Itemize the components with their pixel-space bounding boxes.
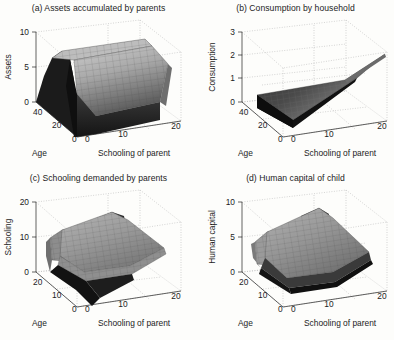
panel-a-ytick-20: 20 [171,121,181,131]
panel-a-xtick-40: 40 [33,107,43,117]
panel-c-ztick-10: 10 [20,232,30,242]
panel-d-ztick-10: 10 [226,197,236,207]
panel-b-z-axis: 3 2 1 0 Consumption [207,27,242,107]
panel-d-plot: 10 5 0 Human capital 20 10 0 Age 0 10 20 [197,186,394,340]
panel-d-ytick-0: 0 [291,304,296,314]
panel-d-ytick-10: 10 [324,299,334,309]
panel-c-xtick-10: 10 [52,290,62,300]
panel-c-ytick-20: 20 [171,291,181,301]
panel-d-zlabel: Human capital [207,210,217,264]
panel-b-surface [257,54,386,128]
panel-a-xtick-0: 0 [72,134,77,144]
panel-a-ztick-2: 10 [20,27,30,37]
panel-d-surface [251,208,373,294]
panel-a-xtick-20: 20 [52,120,62,130]
panel-d-xlabel: Age [238,318,253,328]
panel-c-ztick-0: 0 [24,267,29,277]
panel-b-ytick-20: 20 [377,121,387,131]
panel-a-plot: 10 5 0 Assets 40 20 0 Age 0 10 [0,16,197,170]
panel-d-ztick-5: 5 [230,232,235,242]
panel-c-xlabel: Age [32,318,47,328]
panel-a-ytick-10: 10 [118,129,128,139]
panel-a-ztick-0: 0 [24,97,29,107]
panel-d-ytick-20: 20 [377,291,387,301]
panel-d-xtick-0: 0 [278,304,283,314]
panel-d-title: (d) Human capital of child [197,173,394,183]
panel-b-ztick-0: 0 [230,97,235,107]
panel-d-xtick-20: 20 [239,277,249,287]
panel-c-ylabel: Schooling of parent [98,318,171,328]
panel-b-ztick-2: 2 [230,50,235,60]
panel-c-zlabel: Schooling [3,218,13,255]
panel-b-ztick-1: 1 [230,73,235,83]
panel-c-ytick-0: 0 [85,304,90,314]
panel-c-xtick-0: 0 [72,304,77,314]
panel-c-ztick-20: 20 [20,197,30,207]
panel-a-ylabel: Schooling of parent [98,148,171,158]
panel-b: (b) Consumption by household [197,0,394,170]
panel-b-xtick-0: 0 [278,134,283,144]
panel-b-ztick-3: 3 [230,27,235,37]
panel-b-ytick-0: 0 [291,134,296,144]
panel-d: (d) Human capital of child [197,170,394,340]
panel-a-z-axis: 10 5 0 Assets [3,27,36,107]
panel-b-xlabel: Age [238,148,253,158]
panel-d-ylabel: Schooling of parent [304,318,377,328]
panel-c-surface [46,212,166,306]
panel-d-ztick-0: 0 [230,267,235,277]
panel-d-xtick-10: 10 [258,290,268,300]
panel-b-plot: 3 2 1 0 Consumption 40 20 0 Age 0 10 [197,16,394,170]
panel-c-plot: 20 10 0 Schooling 20 10 0 Age 0 10 20 [0,186,197,340]
panel-c-ytick-10: 10 [118,299,128,309]
panel-c-z-axis: 20 10 0 Schooling [3,197,36,277]
panel-b-xtick-20: 20 [258,120,268,130]
panel-b-zlabel: Consumption [207,42,217,92]
panel-b-y-axis: 0 10 20 Schooling of parent [283,121,387,158]
panel-a-xlabel: Age [32,148,47,158]
figure-grid: (a) Assets accumulated by parents [0,0,394,340]
panel-a-zlabel: Assets [3,54,13,79]
panel-a: (a) Assets accumulated by parents [0,0,197,170]
panel-a-ztick-1: 5 [24,62,29,72]
panel-c: (c) Schooling demanded by parents [0,170,197,340]
panel-b-ylabel: Schooling of parent [304,148,377,158]
panel-c-title: (c) Schooling demanded by parents [0,173,197,183]
panel-b-title: (b) Consumption by household [197,3,394,13]
panel-d-z-axis: 10 5 0 Human capital [207,197,242,277]
panel-a-title: (a) Assets accumulated by parents [0,3,197,13]
panel-a-ytick-0: 0 [85,134,90,144]
panel-b-ytick-10: 10 [324,129,334,139]
panel-b-xtick-40: 40 [239,107,249,117]
panel-c-xtick-20: 20 [33,277,43,287]
panel-d-y-axis: 0 10 20 Schooling of parent [283,291,387,328]
